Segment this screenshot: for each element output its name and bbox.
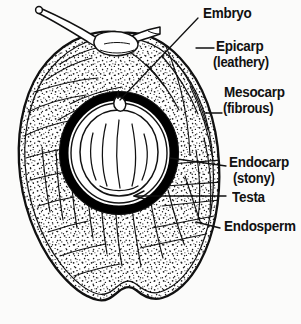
stalk-cap <box>94 32 138 56</box>
label-endocarp-subtext: (stony) <box>233 170 274 186</box>
label-testa-text: Testa <box>232 189 265 205</box>
label-mesocarp: Mesocarp <box>224 85 285 100</box>
label-endosperm-text: Endosperm <box>224 218 296 234</box>
diagram-page: Embryo Epicarp (leathery) Mesocarp (fibr… <box>0 0 301 324</box>
label-epicarp-subtext: (leathery) <box>213 54 269 70</box>
label-mesocarp-text: Mesocarp <box>224 84 285 100</box>
label-endocarp-sub: (stony) <box>233 171 274 186</box>
label-epicarp: Epicarp <box>216 39 264 54</box>
label-epicarp-text: Epicarp <box>216 38 264 54</box>
label-endosperm: Endosperm <box>224 219 296 234</box>
label-mesocarp-sub: (fibrous) <box>223 101 273 116</box>
label-endocarp-text: Endocarp <box>229 154 289 170</box>
label-testa: Testa <box>232 190 265 205</box>
label-embryo: Embryo <box>203 6 252 21</box>
stalk-tip <box>36 7 43 14</box>
label-endocarp: Endocarp <box>229 155 289 170</box>
label-mesocarp-subtext: (fibrous) <box>223 100 273 116</box>
label-epicarp-sub: (leathery) <box>213 55 269 70</box>
label-embryo-text: Embryo <box>203 5 252 21</box>
